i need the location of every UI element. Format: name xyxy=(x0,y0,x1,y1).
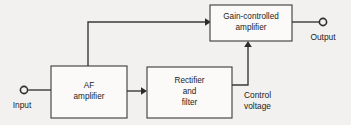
block-label-rectifier-line3: filter xyxy=(182,98,198,107)
block-diagram-canvas: Gain-controlled amplifier AF amplifier R… xyxy=(0,0,351,125)
arrowhead-into-rectifier xyxy=(141,87,147,95)
wire-control-voltage-path xyxy=(232,47,248,85)
input-terminal-icon[interactable] xyxy=(20,86,27,93)
control-voltage-label-line1: Control xyxy=(244,90,271,100)
output-terminal-icon[interactable] xyxy=(319,18,326,25)
block-label-af-amplifier-line1: AF xyxy=(84,81,94,90)
arrowhead-control-voltage-into-amplifier xyxy=(244,41,252,47)
input-terminal-label: Input xyxy=(13,100,32,110)
block-label-gain-controlled-amplifier-line1: Gain-controlled xyxy=(223,12,279,21)
block-label-af-amplifier-line2: amplifier xyxy=(74,92,105,101)
wire-af-amplifier-to-gain-controlled-amplifier xyxy=(88,22,205,66)
block-label-rectifier-line1: Rectifier xyxy=(174,76,204,85)
control-voltage-label-line2: voltage xyxy=(244,101,271,111)
output-terminal-label: Output xyxy=(310,32,336,42)
block-diagram-svg: Gain-controlled amplifier AF amplifier R… xyxy=(0,0,351,125)
block-label-gain-controlled-amplifier-line2: amplifier xyxy=(236,23,267,32)
block-label-rectifier-line2: and xyxy=(183,87,197,96)
